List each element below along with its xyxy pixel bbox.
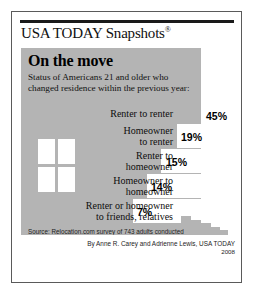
- bar-value: 7%: [137, 206, 152, 218]
- bar-label-line: Renter or homeowner: [86, 200, 173, 211]
- bar-label-line: Homeowner: [124, 125, 173, 136]
- bar-label-line: to renter: [139, 136, 173, 147]
- bar-label: Homeownerto renter: [61, 125, 173, 147]
- bar-label: Renter tohomeowner: [61, 150, 173, 172]
- masthead-title: USA TODAY Snapshots®: [21, 25, 235, 45]
- bar-row: Homeownerto renter 19%: [21, 124, 228, 148]
- bar-row: Renter tohomeowner 15%: [21, 149, 228, 173]
- staircase-step: [220, 230, 228, 235]
- staircase-step: [211, 227, 220, 235]
- page-subtitle: Status of Americans 21 and older who cha…: [28, 72, 200, 93]
- bar-value: 19%: [181, 131, 202, 143]
- source-note: Source: Relocation.com survey of 743 adu…: [28, 228, 198, 235]
- byline: By Anne R. Carey and Adrienne Lewis, USA…: [21, 240, 235, 247]
- page-title: On the move: [28, 52, 203, 70]
- bar-label: Renter or homeownerto friends, relatives: [41, 200, 173, 222]
- bar-value: 14%: [151, 181, 172, 193]
- bar-row: Homeowner tohomeowner 14%: [21, 174, 228, 198]
- masthead-title-text: USA TODAY Snapshots: [21, 25, 165, 41]
- chart-panel: On the move Status of Americans 21 and o…: [21, 48, 228, 235]
- registered-trademark-icon: ®: [165, 25, 171, 34]
- bar-value: 15%: [166, 156, 187, 168]
- bar-rows: Renter to renter 45% Homeownerto renter …: [21, 107, 228, 223]
- masthead-rule: [20, 20, 234, 23]
- bar-label: Renter to renter: [41, 108, 173, 119]
- bar-row: Renter to renter 45%: [21, 107, 228, 123]
- snapshot-frame: USA TODAY Snapshots® On the move Status …: [11, 11, 242, 283]
- year-label: 2008: [21, 248, 235, 255]
- bar-label-line: to friends, relatives: [96, 211, 173, 222]
- staircase-step: [201, 223, 211, 235]
- bar-value: 45%: [206, 110, 227, 122]
